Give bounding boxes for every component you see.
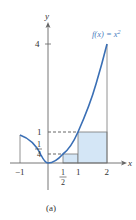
x-axis-label: x: [127, 158, 132, 168]
x-tick-label-minus1: −1: [15, 167, 25, 177]
y-tick-label-1: 1: [37, 127, 42, 137]
rectangle-half-to-one: [63, 154, 78, 163]
caption: (a): [46, 203, 56, 213]
chart: y x 4 1 1 4 −1 1 2 1 2 f(x) = x2 (a): [0, 0, 136, 220]
function-exponent: 2: [118, 29, 121, 35]
y-tick-label-4: 4: [35, 39, 40, 49]
function-label: f(x) = x2: [92, 29, 121, 39]
y-tick-label-quarter-den: 4: [37, 150, 41, 159]
x-tick-label-2: 2: [105, 167, 110, 177]
rectangle-one-to-two: [78, 132, 107, 163]
y-tick-label-quarter-num: 1: [37, 140, 41, 149]
y-axis-label: y: [44, 11, 49, 21]
x-tick-label-1: 1: [76, 167, 81, 177]
x-tick-label-half-den: 2: [61, 178, 65, 187]
x-tick-label-half-num: 1: [61, 168, 65, 177]
